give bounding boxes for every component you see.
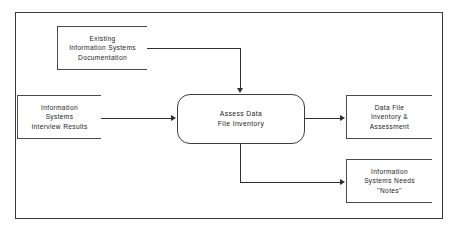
process-line-1: Assess Data: [220, 109, 263, 119]
store-line-2: Systems: [46, 112, 74, 121]
store-line-1: Existing: [90, 34, 116, 43]
flow-process-to-inventory-line: [305, 118, 341, 119]
flow-interview-results-to-process-arrowhead: [171, 115, 176, 121]
store-line-2: Inventory &: [371, 112, 408, 121]
flow-documentation-to-process-vertical: [240, 48, 241, 89]
flow-process-to-notes-horizontal: [240, 182, 341, 183]
flow-documentation-to-process-horizontal: [147, 48, 241, 49]
data-store-data-file-inventory-and-assessment[interactable]: Data File Inventory & Assessment: [346, 95, 432, 139]
process-assess-data-file-inventory[interactable]: Assess Data File Inventory: [177, 94, 305, 144]
store-line-3: Interview Results: [31, 122, 87, 131]
store-line-1: Information: [371, 167, 408, 176]
store-line-1: Information: [41, 103, 78, 112]
store-line-2: Information Systems: [69, 43, 136, 52]
data-store-information-systems-needs-notes[interactable]: Information Systems Needs "Notes": [346, 159, 432, 203]
store-line-1: Data File: [375, 103, 405, 112]
flow-process-to-notes-vertical: [240, 144, 241, 182]
process-line-2: File Inventory: [218, 119, 264, 129]
diagram-canvas: Existing Information Systems Documentati…: [0, 0, 459, 233]
store-line-3: "Notes": [377, 186, 401, 195]
flow-process-to-notes-arrowhead: [340, 179, 345, 185]
flow-process-to-inventory-arrowhead: [340, 115, 345, 121]
flow-documentation-to-process-arrowhead: [237, 88, 243, 93]
store-line-2: Systems Needs: [364, 176, 415, 185]
flow-interview-results-to-process-line: [101, 118, 172, 119]
data-store-information-systems-interview-results[interactable]: Information Systems Interview Results: [17, 95, 101, 139]
data-store-existing-information-systems-documentation[interactable]: Existing Information Systems Documentati…: [57, 26, 147, 70]
store-line-3: Documentation: [78, 53, 127, 62]
store-line-3: Assessment: [370, 122, 409, 131]
